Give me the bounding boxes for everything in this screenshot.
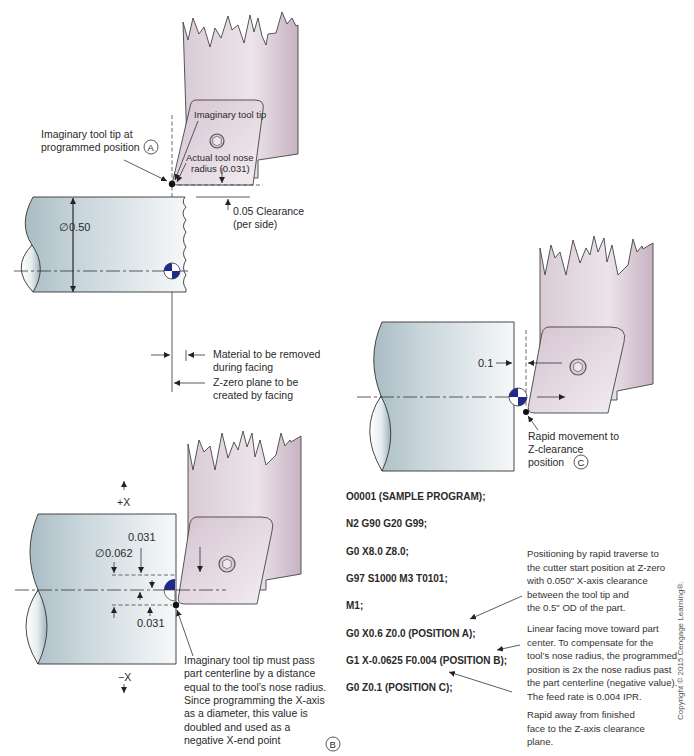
- note-b-code-line: center. To compensate for the: [527, 637, 653, 648]
- marker-a: A: [148, 142, 155, 153]
- note-position-b: Linear facing move toward partcenter. To…: [527, 623, 677, 702]
- marker-b: B: [330, 739, 336, 750]
- note-b-leader: [177, 610, 193, 656]
- dim-062: ∅0.062: [95, 547, 133, 559]
- diameter-label: ∅0.50: [59, 221, 90, 233]
- dim-031-bottom: 0.031: [137, 617, 165, 629]
- note-a-line: the cutter start position at Z-zero: [527, 562, 665, 573]
- tip-programmed-label-1: Imaginary tool tip at: [41, 128, 133, 140]
- dim-031-top: 0.031: [128, 531, 156, 543]
- centroid-symbol: [164, 263, 180, 279]
- cnc-program: O0001 (SAMPLE PROGRAM);N2 G90 G20 G99;G0…: [346, 491, 507, 693]
- copyright-notice: Copyright © 2015 Cengage Learning®.: [676, 581, 685, 720]
- note-a-line: with 0.050" X-axis clearance: [526, 575, 648, 586]
- note-c-line: Rapid away from finished: [527, 709, 635, 720]
- note-b-line: Imaginary tool tip must pass: [184, 654, 315, 666]
- note-b: Imaginary tool tip must passpart centerl…: [184, 654, 326, 746]
- clearance-label-2: (per side): [233, 218, 277, 230]
- view-a: ∅0.50 0.05 Clearance (per side) Imaginar…: [14, 12, 321, 401]
- program-line: G97 S1000 M3 T0101;: [346, 573, 448, 584]
- note-c-leader: [449, 672, 512, 692]
- note-a-line: Positioning by rapid traverse to: [527, 548, 659, 559]
- note-c-line: plane.: [527, 736, 553, 747]
- note-position-c: Rapid away from finishedface to the Z-ax…: [527, 709, 645, 747]
- clearance-label-1: 0.05 Clearance: [233, 205, 304, 217]
- program-line: M1;: [346, 600, 363, 611]
- note-b-line: part centerline by a distance: [184, 667, 315, 679]
- view-b: 0.031 ∅0.062 0.031 +X −X Imaginary tool …: [15, 431, 340, 751]
- centroid-symbol-c: [509, 388, 527, 406]
- z-zero-label-1: Z-zero plane to be: [213, 376, 298, 388]
- program-line: G0 X8.0 Z8.0;: [346, 546, 409, 557]
- note-b-code-line: tool’s nose radius, the programmed: [527, 650, 677, 661]
- rapid-label-2: Z-clearance: [528, 443, 584, 455]
- note-b-line: Since programming the X-axis: [184, 694, 325, 706]
- minus-x-label: −X: [118, 671, 131, 683]
- imaginary-tip-label: Imaginary tool tip: [194, 109, 266, 120]
- rapid-leader: [528, 416, 538, 430]
- insert-screw-icon-c: [570, 359, 586, 375]
- note-b-code-leader: [497, 645, 520, 650]
- material-label-2: during facing: [213, 361, 273, 373]
- tool-tip-dot-b: [173, 602, 179, 608]
- note-b-line: as a diameter, this value is: [184, 707, 308, 719]
- note-position-a: Positioning by rapid traverse tothe cutt…: [526, 548, 665, 613]
- workpiece-c: [373, 322, 514, 471]
- plus-x-label: +X: [117, 496, 130, 508]
- note-b-code-line: The feed rate is 0.004 IPR.: [527, 691, 642, 702]
- note-c-line: face to the Z-axis clearance: [527, 723, 645, 734]
- note-a-line: between the tool tip and: [527, 589, 629, 600]
- nose-radius-label-2: radius (0.031): [191, 163, 250, 174]
- program-line: G0 Z0.1 (POSITION C);: [346, 682, 453, 693]
- view-c: 0.1 Rapid movement to Z-clearance positi…: [357, 236, 653, 471]
- rapid-label-1: Rapid movement to: [528, 430, 619, 442]
- material-label-1: Material to be removed: [213, 348, 321, 360]
- tip-programmed-label-2: programmed position: [41, 141, 140, 153]
- note-b-line: negative X-end point: [184, 734, 280, 746]
- workpiece: [24, 197, 186, 292]
- program-line: G0 X0.6 Z0.0 (POSITION A);: [346, 628, 476, 639]
- note-b-line: equal to the tool’s nose radius.: [184, 681, 326, 693]
- nose-radius-label-1: Actual tool nose: [186, 152, 254, 163]
- dim-label-c: 0.1: [478, 357, 493, 369]
- program-line: N2 G90 G20 G99;: [346, 518, 427, 529]
- insert-screw-icon-b: [219, 556, 235, 572]
- imaginary-tip-dot: [169, 181, 175, 187]
- facing-diagram: ∅0.50 0.05 Clearance (per side) Imaginar…: [0, 0, 694, 756]
- note-b-line: doubled and used as a: [184, 721, 290, 733]
- tool-tip-dot-c: [523, 409, 529, 415]
- insert-screw-icon: [210, 134, 224, 148]
- program-line: G1 X-0.0625 F0.004 (POSITION B);: [346, 655, 507, 666]
- note-b-code-line: Linear facing move toward part: [527, 623, 659, 634]
- note-b-code-line: the part centerline (negative value).: [527, 677, 677, 688]
- rapid-label-3: position: [528, 456, 564, 468]
- z-zero-label-2: created by facing: [213, 389, 293, 401]
- marker-c: C: [578, 457, 585, 468]
- note-a-line: the 0.5" OD of the part.: [527, 602, 625, 613]
- note-b-code-line: position is 2x the nose radius past: [527, 664, 672, 675]
- note-a-leader: [470, 596, 522, 619]
- tip-programmed-leader: [124, 160, 167, 181]
- program-line: O0001 (SAMPLE PROGRAM);: [346, 491, 485, 502]
